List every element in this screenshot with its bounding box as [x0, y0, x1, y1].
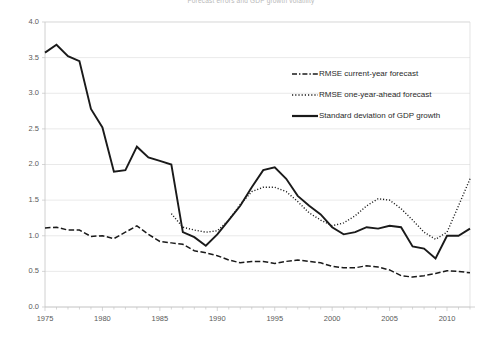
y-tick-label: 3.0	[29, 88, 39, 97]
x-axis-tick-labels: 19751980198519901995200020052010	[37, 314, 456, 323]
y-tick-label: 1.5	[29, 195, 39, 204]
x-tick-label: 1995	[266, 314, 283, 323]
x-tick-label: 1990	[209, 314, 226, 323]
y-tick-label: 0.0	[29, 302, 39, 311]
data-series-group	[45, 45, 470, 277]
y-tick-label: 3.5	[29, 53, 39, 62]
y-tick-label: 1.0	[29, 231, 39, 240]
grid-lines	[45, 22, 470, 307]
legend-item-label: RMSE current-year forecast	[319, 69, 419, 78]
chart-container: Forecast errors and GDP growth volatilit…	[0, 0, 502, 351]
y-tick-label: 0.5	[29, 266, 39, 275]
y-tick-label: 2.5	[29, 124, 39, 133]
x-tick-label: 2010	[439, 314, 456, 323]
series-line-dashed	[45, 226, 470, 277]
x-tick-label: 1980	[94, 314, 111, 323]
y-axis-tick-labels: 0.00.51.01.52.02.53.03.54.0	[29, 17, 45, 311]
legend-item-label: RMSE one-year-ahead forecast	[319, 90, 432, 99]
y-tick-label: 4.0	[29, 17, 39, 26]
legend-item-label: Standard deviation of GDP growth	[319, 111, 440, 120]
x-tick-label: 1985	[152, 314, 169, 323]
x-tick-label: 1975	[37, 314, 54, 323]
x-tick-label: 2005	[381, 314, 398, 323]
chart-legend: RMSE current-year forecastRMSE one-year-…	[292, 69, 440, 120]
chart-plot: 0.00.51.01.52.02.53.03.54.0 197519801985…	[0, 0, 502, 351]
x-tick-label: 2000	[324, 314, 341, 323]
series-line-dotted	[171, 179, 470, 240]
y-tick-label: 2.0	[29, 159, 39, 168]
x-axis-tick-marks	[45, 307, 470, 311]
